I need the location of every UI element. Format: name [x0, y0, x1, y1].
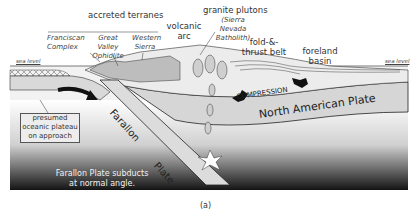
franciscan-label: Franciscan Complex: [47, 34, 77, 52]
accreted-terranes-label: accreted terranes: [88, 10, 163, 20]
western-sierra-label: Western Sierra: [132, 34, 158, 52]
oceanic-plateau-box: presumed oceanic plateau on approach: [20, 113, 80, 143]
sea-level-right-label: sea level: [385, 58, 409, 64]
granite-plutons-label: granite plutons: [203, 5, 268, 15]
fold-thrust-label: fold-&-thrust belt: [240, 37, 288, 57]
volcanic-arc-label: volcanic arc: [165, 21, 203, 41]
great-valley-label: Great Valley Ophiolite: [88, 34, 128, 61]
subduction-caption: Farallon Plate subducts at normal angle.: [52, 169, 152, 189]
sea-level-left-label: sea level: [16, 58, 40, 64]
figure-caption: (a): [200, 201, 211, 211]
foreland-basin-label: foreland basin: [300, 46, 340, 66]
